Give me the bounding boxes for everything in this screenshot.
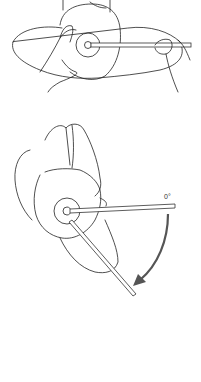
stationary-arm	[70, 204, 175, 213]
rotation-arrow	[140, 214, 168, 280]
top-goniometer-arm	[91, 43, 191, 47]
bottom-panel	[15, 124, 175, 296]
left-hand	[40, 26, 77, 92]
angle-label: 0°	[164, 193, 171, 200]
illustration-canvas	[0, 0, 201, 382]
moving-arm	[69, 220, 136, 296]
top-goniometer-pivot	[85, 42, 92, 49]
top-panel	[12, 0, 191, 92]
bottom-head	[34, 169, 101, 239]
bottom-shoulder	[15, 150, 32, 220]
